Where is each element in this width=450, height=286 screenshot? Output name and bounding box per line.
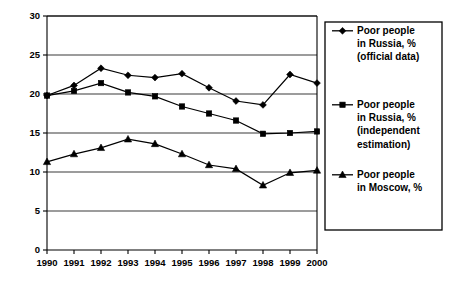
legend-marker-square-icon xyxy=(340,102,345,107)
y-tick-label-15: 15 xyxy=(29,127,40,138)
chart-legend: Poor peoplein Russia, %(official data)Po… xyxy=(325,22,442,230)
data-point-square-1992 xyxy=(98,80,103,85)
x-tick-label-1995: 1995 xyxy=(171,257,193,268)
x-tick-label-1999: 1999 xyxy=(279,257,300,268)
data-point-square-1994 xyxy=(152,94,157,99)
legend-label-2-line-1: in Moscow, % xyxy=(357,182,422,193)
x-tick-label-1992: 1992 xyxy=(90,257,111,268)
y-tick-label-10: 10 xyxy=(29,166,40,177)
y-tick-label-30: 30 xyxy=(29,10,40,21)
legend-label-0-line-2: (official data) xyxy=(357,51,419,62)
data-point-square-2000 xyxy=(314,129,319,134)
legend-label-1-line-1: in Russia, % xyxy=(357,112,416,123)
data-point-square-1991 xyxy=(71,88,76,93)
y-tick-label-0: 0 xyxy=(35,244,40,255)
legend-label-2-line-0: Poor people xyxy=(357,169,415,180)
legend-label-1-line-2: (independent xyxy=(357,125,420,136)
data-point-square-1997 xyxy=(233,118,238,123)
poverty-line-chart: 051015202530 199019911992199319941995199… xyxy=(0,0,450,286)
x-tick-label-1990: 1990 xyxy=(36,257,57,268)
data-point-square-1995 xyxy=(179,104,184,109)
x-tick-label-1997: 1997 xyxy=(225,257,246,268)
x-tick-label-1998: 1998 xyxy=(252,257,273,268)
x-axis-tick-labels: 1990199119921993199419951996199719981999… xyxy=(36,257,327,268)
y-tick-label-25: 25 xyxy=(29,49,40,60)
x-tick-label-1996: 1996 xyxy=(198,257,219,268)
data-point-square-1996 xyxy=(206,111,211,116)
legend-label-1-line-3: estimation) xyxy=(357,139,410,150)
data-point-square-1999 xyxy=(287,130,292,135)
x-tick-label-1991: 1991 xyxy=(63,257,85,268)
data-point-square-1990 xyxy=(44,93,49,98)
x-tick-label-2000: 2000 xyxy=(306,257,327,268)
x-tick-label-1993: 1993 xyxy=(117,257,138,268)
legend-label-1-line-0: Poor people xyxy=(357,99,415,110)
data-point-square-1998 xyxy=(260,131,265,136)
chart-figure: 051015202530 199019911992199319941995199… xyxy=(0,0,450,286)
legend-label-0-line-1: in Russia, % xyxy=(357,38,416,49)
data-point-square-1993 xyxy=(125,90,130,95)
x-tick-label-1994: 1994 xyxy=(144,257,166,268)
legend-label-0-line-0: Poor people xyxy=(357,25,415,36)
y-tick-label-20: 20 xyxy=(29,88,40,99)
y-tick-label-5: 5 xyxy=(35,205,41,216)
